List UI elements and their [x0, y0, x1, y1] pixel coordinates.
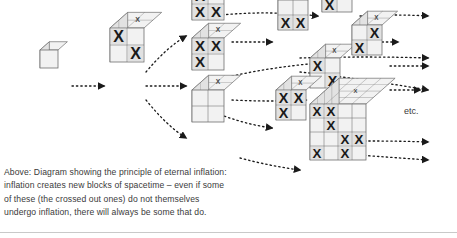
spacetime-block-large-inflation-block: XXXXXXXXXX	[310, 78, 395, 161]
figure-caption: Above: Diagram showing the principle of …	[4, 166, 254, 219]
spacetime-block-block-row2-col4: XXXX	[352, 11, 398, 55]
crossed-out-mark: X	[370, 25, 380, 41]
crossed-out-mark: X	[313, 104, 322, 119]
crossed-out-mark: X	[296, 15, 306, 31]
inflation-arrow	[146, 36, 186, 72]
block-front-face	[40, 50, 58, 68]
crossed-out-mark: X	[355, 132, 364, 147]
spacetime-block-seed-block	[40, 42, 67, 68]
crossed-out-mark: X	[294, 90, 304, 106]
spacetime-block-branch-top-block: XXXXX	[192, 0, 241, 20]
crossed-out-mark: X	[195, 53, 205, 70]
crossed-out-mark-top: X	[135, 16, 140, 24]
crossed-out-mark: X	[195, 37, 205, 54]
crossed-out-mark: X	[130, 44, 141, 62]
crossed-out-mark: X	[313, 58, 323, 74]
crossed-out-mark-top: X	[353, 88, 357, 94]
crossed-out-mark: X	[341, 132, 350, 147]
crossed-out-mark: X	[327, 104, 336, 119]
crossed-out-mark: X	[355, 40, 365, 56]
crossed-out-mark: X	[195, 3, 205, 20]
crossed-out-mark-top: X	[216, 26, 221, 33]
spacetime-block-block-row1-col4: XXXXX	[322, 0, 368, 13]
crossed-out-mark: X	[325, 0, 335, 13]
crossed-out-mark: X	[279, 90, 289, 106]
spacetime-block-branch-middle-block: XXXXX	[192, 23, 241, 70]
inflation-arrow	[146, 100, 186, 138]
crossed-out-mark: X	[327, 118, 336, 133]
crossed-out-mark: X	[281, 15, 291, 31]
block-layer: XXXXXXXXXXXXXXXXXXXXXXXXXXXXXXXXXXXXXXXX…	[40, 0, 398, 161]
spacetime-block-branch-bottom-block: XX	[192, 75, 241, 122]
crossed-out-mark: X	[211, 3, 221, 20]
crossed-out-mark: X	[341, 146, 350, 161]
crossed-out-mark: X	[279, 105, 289, 121]
spacetime-block-first-inflation-block: XXXX	[110, 12, 162, 62]
etc-label: etc.	[404, 106, 419, 116]
crossed-out-mark: X	[211, 37, 221, 54]
spacetime-block-block-row1-col3: XXXX	[278, 0, 324, 31]
bottom-divider	[0, 232, 457, 233]
crossed-out-mark: X	[313, 146, 322, 161]
crossed-out-mark: X	[113, 27, 124, 45]
crossed-out-mark-top: X	[216, 78, 221, 85]
